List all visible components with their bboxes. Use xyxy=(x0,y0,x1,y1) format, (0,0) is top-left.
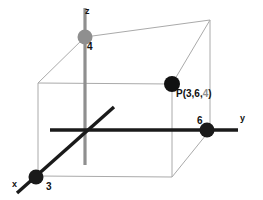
x-intercept-marker xyxy=(29,170,44,185)
box-edge-top-right-diag xyxy=(172,20,210,84)
point-p-label: P(3,6,4) xyxy=(176,89,212,99)
x-axis-label: x xyxy=(12,180,17,189)
diagram-canvas: z 4 y 6 x 3 P(3,6,4) xyxy=(0,0,263,200)
coordinate-diagram-svg xyxy=(0,0,263,200)
box-edge-bottom-front xyxy=(38,176,172,177)
x-value-label: 3 xyxy=(46,182,52,192)
y-value-label: 6 xyxy=(197,116,203,126)
z-value-label: 4 xyxy=(87,42,93,52)
box-edge-top-front xyxy=(38,83,172,84)
z-axis-label: z xyxy=(85,7,90,16)
box-edge-top-back-left xyxy=(38,37,85,83)
point-p-suffix: ) xyxy=(208,88,211,99)
point-p-prefix: P( xyxy=(176,88,186,99)
box-edge-bottom-right-diag xyxy=(172,130,210,177)
box-edge-top-back xyxy=(85,20,210,37)
y-axis-label: y xyxy=(240,114,245,123)
